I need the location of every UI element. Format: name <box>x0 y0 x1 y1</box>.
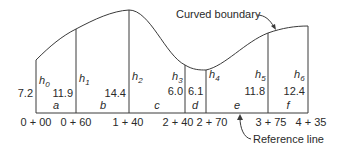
offset-label-h1: h1 <box>79 72 90 87</box>
offset-value-h6: 12.4 <box>284 85 305 97</box>
offset-label-h2: h2 <box>132 70 143 85</box>
station-label-5: 3 + 75 <box>256 116 287 128</box>
reference-line-arrowhead <box>237 114 243 120</box>
offset-value-h2: 14.4 <box>105 87 126 99</box>
offset-lines <box>36 10 308 113</box>
segment-label-a: a <box>53 99 59 111</box>
segment-label-b: b <box>100 99 106 111</box>
segment-label-f: f <box>286 99 290 111</box>
offset-values: 7.2 11.9 14.4 6.0 6.1 11.8 12.4 <box>18 85 305 99</box>
curved-boundary-label: Curved boundary <box>176 8 261 20</box>
offset-area-diagram: h0 h1 h2 h3 h4 h5 h6 7.2 11.9 14.4 6.0 6… <box>0 0 339 151</box>
station-labels: 0 + 00 0 + 60 1 + 40 2 + 40 2 + 70 3 + 7… <box>21 116 327 128</box>
station-label-2: 1 + 40 <box>113 116 144 128</box>
offset-label-h6: h6 <box>294 68 305 83</box>
station-label-0: 0 + 00 <box>21 116 52 128</box>
station-label-3: 2 + 40 <box>163 116 194 128</box>
offset-label-h4: h4 <box>209 68 220 83</box>
offset-label-h3: h3 <box>172 70 183 85</box>
segment-label-d: d <box>192 99 199 111</box>
station-label-1: 0 + 60 <box>61 116 92 128</box>
offset-value-h5: 11.8 <box>244 85 265 97</box>
station-label-6: 4 + 35 <box>296 116 327 128</box>
offset-label-h5: h5 <box>255 68 266 83</box>
offset-label-h0: h0 <box>39 74 50 89</box>
offset-value-h3: 6.0 <box>168 85 183 97</box>
segment-label-c: c <box>154 99 160 111</box>
reference-line-leader <box>240 118 251 139</box>
offset-value-h0: 7.2 <box>18 87 33 99</box>
reference-line-label: Reference line <box>253 133 324 145</box>
station-label-4: 2 + 70 <box>197 116 228 128</box>
segment-label-e: e <box>234 99 240 111</box>
offset-value-h4: 6.1 <box>188 85 203 97</box>
segment-labels: a b c d e f <box>53 99 291 111</box>
offset-value-h1: 11.9 <box>52 87 73 99</box>
curved-boundary-arrowhead <box>271 24 276 30</box>
